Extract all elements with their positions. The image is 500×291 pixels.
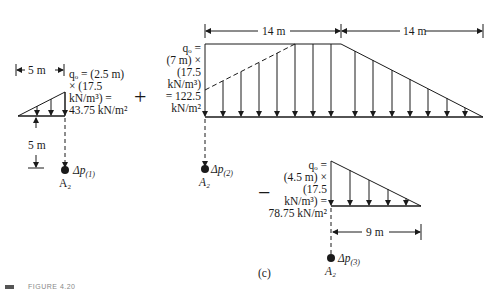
- figure-drawing: [0, 0, 500, 291]
- diagram3-width-label: 9 m: [366, 226, 384, 238]
- diagram1-load-triangle: [18, 92, 65, 116]
- diagram2-load-label: qₒ = (7 m) × (17.5 kN/m³) = 122.5 kN/m²: [140, 42, 201, 114]
- caption-marker: [5, 285, 14, 289]
- diagram3-load-triangle: [331, 161, 421, 206]
- diagram1-load-label: qₒ = (2.5 m) × (17.5 kN/m³) = 43.75 kN/m…: [69, 68, 127, 116]
- panel-label: (c): [258, 267, 271, 279]
- point-a2-3: [327, 254, 335, 262]
- diagram2-dimensions: [205, 24, 483, 38]
- point-a2-2: [201, 165, 209, 173]
- diagram2-point-label: A₂: [199, 176, 210, 188]
- diagram1-width-label: 5 m: [28, 64, 46, 76]
- point-a2-1: [61, 166, 69, 174]
- diagram2-stress-label: Δp(2): [211, 163, 233, 180]
- diagram2-left-dim-label: 14 m: [262, 25, 285, 37]
- diagram2-right-dim-label: 14 m: [403, 25, 426, 37]
- diagram3-load-label: qₒ = (4.5 m) × (17.5 kN/m³) = 78.75 kN/m…: [260, 159, 327, 219]
- diagram3-point-label: A₂: [325, 265, 336, 277]
- figure-caption: FIGURE 4.20: [28, 283, 76, 290]
- diagram3-stress-label: Δp(3): [338, 252, 360, 269]
- diagram1-stress-label: Δp(1): [73, 164, 95, 181]
- diagram2-load-trapezoid: [205, 44, 483, 117]
- diagram1-point-label: A₂: [59, 177, 71, 189]
- diagram1-depth-label: 5 m: [28, 139, 46, 151]
